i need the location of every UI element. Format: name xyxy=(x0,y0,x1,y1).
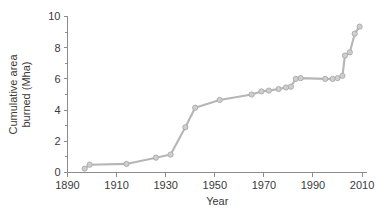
plot-area: 02468101890191019301950197019902010YearC… xyxy=(7,10,374,206)
x-tick-label: 1970 xyxy=(252,179,276,191)
data-point-marker: 2002: 6.2 Mha xyxy=(340,73,345,78)
x-tick-label: 2010 xyxy=(350,179,374,191)
data-point-marker: 1998: 6 Mha xyxy=(330,76,335,81)
cumulative-area-burned-line-chart: 02468101890191019301950197019902010YearC… xyxy=(0,0,389,216)
data-point-marker: 2003: 7.5 Mha xyxy=(342,53,347,58)
data-point-marker: 1995: 6 Mha xyxy=(323,76,328,81)
data-point-marker: 1938: 2.9 Mha xyxy=(183,125,188,130)
y-tick-label: 4 xyxy=(54,104,60,116)
y-tick-label: 10 xyxy=(48,10,60,22)
x-tick-label: 1910 xyxy=(104,179,128,191)
y-tick-label: 2 xyxy=(54,135,60,147)
data-point-marker: 1926: 0.95 Mha xyxy=(153,155,158,160)
x-tick-label: 1890 xyxy=(55,179,79,191)
x-axis-title: Year xyxy=(206,195,229,207)
data-point-marker: 1985: 6.05 Mha xyxy=(298,76,303,81)
data-point-marker: 2005: 7.7 Mha xyxy=(347,50,352,55)
data-point-marker: 1942: 4.15 Mha xyxy=(193,105,198,110)
data-point-marker: 2007: 8.9 Mha xyxy=(352,31,357,36)
data-point-marker: 1914: 0.55 Mha xyxy=(124,161,129,166)
data-point-marker: 1983: 6 Mha xyxy=(293,76,298,81)
y-tick-label: 0 xyxy=(54,166,60,178)
data-point-marker: 1981: 5.5 Mha xyxy=(288,84,293,89)
y-axis-title-line2: burned (Mha) xyxy=(20,61,32,127)
data-point-marker: 1932: 1.15 Mha xyxy=(168,152,173,157)
data-point-marker: 1969: 5.2 Mha xyxy=(259,89,264,94)
y-tick-label: 6 xyxy=(54,73,60,85)
series-line-cumulative-area-burned xyxy=(85,27,360,169)
data-point-marker: 1965: 5 Mha xyxy=(249,92,254,97)
data-point-marker: 1952: 4.65 Mha xyxy=(217,97,222,102)
x-tick-label: 1950 xyxy=(203,179,227,191)
data-point-marker: 1979: 5.45 Mha xyxy=(283,85,288,90)
x-tick-label: 1930 xyxy=(153,179,177,191)
chart-figure: 02468101890191019301950197019902010YearC… xyxy=(0,0,389,216)
x-tick-label: 1990 xyxy=(301,179,325,191)
data-point-marker: 1899: 0.5 Mha xyxy=(87,162,92,167)
y-axis-title-line1: Cumulative area xyxy=(7,54,19,135)
y-tick-label: 8 xyxy=(54,42,60,54)
data-point-marker: 2009: 9.35 Mha xyxy=(357,24,362,29)
data-point-marker: 1897: 0.25 Mha xyxy=(82,166,87,171)
data-point-marker: 1976: 5.35 Mha xyxy=(276,86,281,91)
data-point-marker: 1972: 5.25 Mha xyxy=(266,88,271,93)
data-point-marker: 2000: 6.05 Mha xyxy=(335,76,340,81)
